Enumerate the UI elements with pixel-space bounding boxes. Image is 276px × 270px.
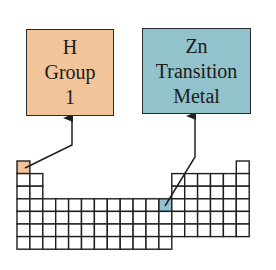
periodic-cell-r2-c16	[211, 174, 224, 187]
periodic-cell-r7-c4	[56, 237, 69, 250]
periodic-cell-r6-c12	[159, 224, 172, 237]
periodic-cell-r6-c3	[43, 224, 56, 237]
periodic-cell-r2-c2	[30, 174, 43, 187]
periodic-cell-r5-c18	[236, 211, 249, 224]
callout-arrows	[25, 116, 195, 206]
periodic-cell-r4-c6	[82, 199, 95, 212]
periodic-cell-r7-c7	[94, 237, 107, 250]
periodic-cell-r3-c1	[17, 186, 30, 199]
periodic-cell-r2-c18	[236, 174, 249, 187]
category-label-transition: Transition	[156, 59, 238, 84]
periodic-cell-r7-c11	[146, 237, 159, 250]
periodic-cell-r5-c15	[198, 211, 211, 224]
periodic-cell-r5-c14	[185, 211, 198, 224]
periodic-cell-r4-c4	[56, 199, 69, 212]
periodic-cell-r3-c17	[223, 186, 236, 199]
periodic-cell-r6-c15	[198, 224, 211, 237]
periodic-cell-r6-c11	[146, 224, 159, 237]
periodic-cell-r7-c5	[69, 237, 82, 250]
periodic-cell-r4-c17	[223, 199, 236, 212]
periodic-cell-r3-c18	[236, 186, 249, 199]
zinc-transition-metal-callout: Zn Transition Metal	[142, 28, 251, 114]
periodic-cell-r6-c6	[82, 224, 95, 237]
periodic-cell-r2-c17	[223, 174, 236, 187]
periodic-cell-r7-c6	[82, 237, 95, 250]
periodic-cell-r4-c7	[94, 199, 107, 212]
periodic-cell-r6-c13	[172, 224, 185, 237]
category-label-metal: Metal	[173, 84, 220, 109]
periodic-cell-r4-c1	[17, 199, 30, 212]
periodic-cell-r4-c13	[172, 199, 185, 212]
periodic-cell-r1-c18	[236, 161, 249, 174]
periodic-cell-r4-c10	[133, 199, 146, 212]
periodic-cell-r7-c8	[107, 237, 120, 250]
periodic-cell-r7-c9	[120, 237, 133, 250]
periodic-cell-r7-c3	[43, 237, 56, 250]
periodic-cell-r5-c9	[120, 211, 133, 224]
periodic-cell-r6-c1	[17, 224, 30, 237]
periodic-cell-r7-c1	[17, 237, 30, 250]
periodic-cell-r2-c15	[198, 174, 211, 187]
periodic-cell-r3-c15	[198, 186, 211, 199]
periodic-cell-r5-c2	[30, 211, 43, 224]
periodic-cell-r4-c11	[146, 199, 159, 212]
periodic-cell-r5-c8	[107, 211, 120, 224]
periodic-cell-r5-c6	[82, 211, 95, 224]
periodic-cell-r5-c4	[56, 211, 69, 224]
periodic-cell-r5-c1	[17, 211, 30, 224]
periodic-cell-r6-c5	[69, 224, 82, 237]
periodic-cell-r5-c11	[146, 211, 159, 224]
periodic-cell-r6-c10	[133, 224, 146, 237]
element-symbol-h: H	[63, 35, 77, 60]
periodic-cell-r5-c13	[172, 211, 185, 224]
periodic-cell-r5-c10	[133, 211, 146, 224]
category-label-1: 1	[65, 85, 75, 110]
periodic-cell-r7-c10	[133, 237, 146, 250]
periodic-cell-r3-c2	[30, 186, 43, 199]
periodic-cell-r6-c17	[223, 224, 236, 237]
periodic-cell-r4-c15	[198, 199, 211, 212]
periodic-cell-r4-c5	[69, 199, 82, 212]
periodic-cell-r2-c1	[17, 174, 30, 187]
periodic-cell-r5-c17	[223, 211, 236, 224]
periodic-cell-r5-c5	[69, 211, 82, 224]
periodic-cell-r4-c14	[185, 199, 198, 212]
periodic-cell-r5-c7	[94, 211, 107, 224]
periodic-cell-r6-c7	[94, 224, 107, 237]
category-label-group: Group	[44, 60, 95, 85]
periodic-cell-r7-c2	[30, 237, 43, 250]
periodic-cell-r4-c2	[30, 199, 43, 212]
periodic-cell-r6-c9	[120, 224, 133, 237]
periodic-cell-r4-c3	[43, 199, 56, 212]
periodic-cell-r6-c8	[107, 224, 120, 237]
periodic-cell-r6-c18	[236, 224, 249, 237]
periodic-cell-r3-c14	[185, 186, 198, 199]
periodic-cell-r6-c14	[185, 224, 198, 237]
periodic-cell-r2-c14	[185, 174, 198, 187]
periodic-cell-r5-c3	[43, 211, 56, 224]
periodic-cell-r4-c16	[211, 199, 224, 212]
periodic-cell-r4-c9	[120, 199, 133, 212]
arrow-h	[25, 118, 72, 168]
periodic-table-grid	[17, 161, 249, 249]
periodic-cell-r5-c12	[159, 211, 172, 224]
periodic-cell-r4-c18	[236, 199, 249, 212]
periodic-cell-r4-c8	[107, 199, 120, 212]
element-symbol-zn: Zn	[185, 34, 207, 59]
hydrogen-group1-callout: H Group 1	[26, 29, 114, 116]
periodic-cell-r6-c2	[30, 224, 43, 237]
periodic-cell-r5-c16	[211, 211, 224, 224]
periodic-cell-r6-c4	[56, 224, 69, 237]
periodic-cell-r7-c12	[159, 237, 172, 250]
periodic-cell-r6-c16	[211, 224, 224, 237]
periodic-cell-r3-c16	[211, 186, 224, 199]
